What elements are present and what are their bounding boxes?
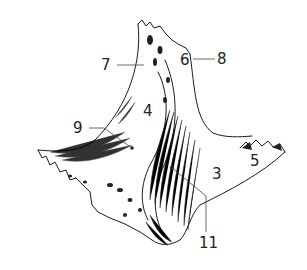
label-8: 8 — [217, 52, 227, 67]
serrated-edge — [38, 150, 152, 240]
shadow-hatching — [146, 110, 200, 245]
left-hatching — [50, 96, 135, 161]
label-7: 7 — [101, 58, 111, 73]
top-crest — [138, 20, 190, 54]
label-5: 5 — [250, 154, 260, 169]
anatomical-figure: 7 6 8 4 9 5 3 11 — [0, 0, 307, 270]
bone-drawing — [0, 0, 307, 270]
label-9: 9 — [73, 121, 83, 136]
inner-ridge — [142, 72, 166, 220]
label-3: 3 — [212, 167, 222, 182]
label-6: 6 — [180, 53, 190, 68]
label-11: 11 — [199, 236, 218, 251]
left-process-outline — [38, 24, 139, 151]
label-4: 4 — [143, 104, 153, 119]
